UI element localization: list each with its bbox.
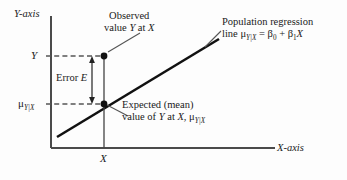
x-axis-label-text: X-axis (277, 142, 304, 153)
regression-line-annotation: Population regression line μY|X = β0 + β… (222, 16, 313, 43)
y-tick-label: Y (31, 49, 37, 62)
observed-value-annotation: Observed value Y at X (104, 10, 154, 34)
y-tick-label-text: Y (31, 49, 37, 61)
x-tick-label: X (100, 152, 107, 165)
observed-annotation-line2: value Y at X (104, 22, 154, 34)
regression-annotation-line2: line μY|X = β0 + β1X (222, 28, 313, 42)
regression-annotation-line1: Population regression (222, 16, 313, 28)
y-axis-label: Y-axis (14, 8, 39, 20)
observed-leader-line (108, 33, 140, 52)
error-annotation-text: Error E (56, 72, 87, 83)
x-axis-label: X-axis (277, 142, 304, 154)
x-tick-label-text: X (100, 152, 107, 164)
error-arrow-head-up (89, 56, 95, 63)
error-arrow-head-down (89, 97, 95, 104)
mu-tick-subscript: Y|X (24, 104, 34, 112)
expected-value-annotation: Expected (mean) value of Y at X, μY|X (122, 99, 205, 126)
expected-annotation-line1: Expected (mean) (122, 99, 205, 111)
error-annotation: Error E (56, 72, 87, 84)
expected-annotation-line2: value of Y at X, μY|X (122, 111, 205, 125)
y-axis-label-text: Y-axis (14, 8, 39, 19)
observed-annotation-line1: Observed (104, 10, 154, 22)
observed-point (101, 53, 108, 60)
mu-tick-label: μY|X (18, 97, 34, 113)
expected-point (101, 101, 108, 108)
regression-diagram: Y-axis X-axis Y μY|X X Observed value Y … (0, 0, 347, 180)
